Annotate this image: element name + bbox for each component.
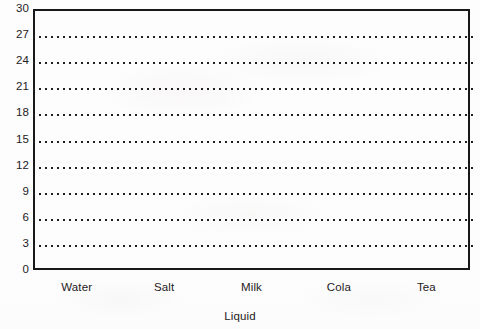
plot-area	[33, 9, 470, 270]
bar-chart-figure: 302724211815129630 WaterSaltMilkColaTea …	[0, 0, 480, 329]
y-tick-label-15: 15	[0, 134, 29, 146]
y-tick-label-12: 12	[0, 160, 29, 172]
y-tick-label-30: 30	[0, 3, 29, 15]
y-tick-label-18: 18	[0, 107, 29, 119]
plot-series-layer	[35, 11, 468, 268]
x-tick-label-cola: Cola	[294, 281, 384, 294]
x-tick-label-water: Water	[32, 281, 122, 294]
y-tick-label-9: 9	[0, 186, 29, 198]
x-tick-label-milk: Milk	[207, 281, 297, 294]
y-tick-label-27: 27	[0, 29, 29, 41]
y-tick-label-3: 3	[0, 238, 29, 250]
y-tick-label-21: 21	[0, 81, 29, 93]
x-axis-title: Liquid	[0, 310, 480, 323]
y-axis: 302724211815129630	[0, 0, 29, 329]
y-tick-label-0: 0	[0, 264, 29, 276]
y-tick-label-24: 24	[0, 55, 29, 67]
x-tick-label-tea: Tea	[381, 281, 471, 294]
x-axis: WaterSaltMilkColaTea	[33, 281, 470, 297]
x-tick-label-salt: Salt	[119, 281, 209, 294]
y-tick-label-6: 6	[0, 212, 29, 224]
